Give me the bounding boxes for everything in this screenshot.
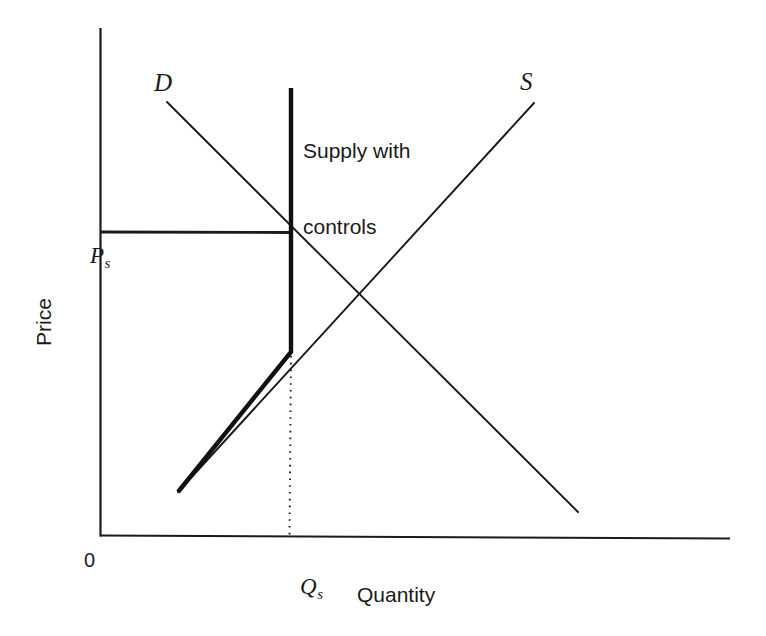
y-axis-title: Price [32, 298, 56, 346]
ps-symbol: P [90, 243, 104, 268]
annotation-line-1: Supply with [303, 138, 410, 163]
demand-curve-label: D [154, 69, 172, 97]
ps-subscript: s [105, 255, 111, 271]
qs-symbol: Q [300, 574, 317, 599]
qs-subscript: s [317, 586, 323, 602]
supply-demand-price-controls-figure: D S Supply with controls Ps Qs 0 Quantit… [0, 0, 766, 636]
x-axis-line [100, 536, 730, 539]
qs-drop-line [290, 356, 292, 535]
supply-with-controls-annotation: Supply with controls [303, 88, 410, 290]
x-axis-title: Quantity [357, 583, 435, 607]
qs-axis-label: Qs [277, 548, 323, 629]
ps-reference-line [100, 232, 293, 233]
supply-curve-label: S [520, 68, 533, 96]
origin-label: 0 [84, 549, 95, 571]
ps-axis-label: Ps [67, 217, 110, 298]
annotation-line-2: controls [303, 214, 410, 239]
